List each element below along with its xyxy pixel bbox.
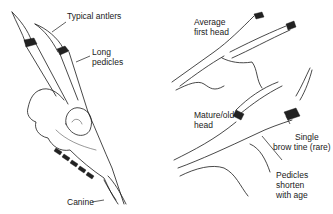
label-long-pedicles-line2: pedicles [92, 57, 123, 67]
label-mature-line1: Mature/old [194, 110, 234, 120]
label-pedicles-line2: shorten [276, 180, 308, 190]
label-long-pedicles: Long pedicles [92, 47, 123, 67]
leader-long-pedicles [76, 56, 90, 62]
label-pedicles-shorten: Pedicles shorten with age [276, 170, 308, 200]
label-single-brow-tine: Single brow tine (rare) [273, 132, 331, 152]
label-average-first-head: Average first head [194, 17, 229, 37]
label-mature-line2: head [194, 120, 234, 130]
label-canine: Canine [67, 197, 94, 207]
leader-typical-antlers [52, 22, 66, 32]
label-typical-antlers: Typical antlers [67, 11, 121, 21]
label-pedicles-line1: Pedicles [276, 170, 308, 180]
label-first-head-line1: Average [194, 17, 229, 27]
skull-drawing [12, 12, 126, 204]
label-brow-line1: Single [273, 132, 331, 142]
first-head-drawing [172, 12, 296, 90]
label-pedicles-line3: with age [276, 190, 308, 200]
label-first-head-line2: first head [194, 27, 229, 37]
label-brow-line2: brow tine (rare) [273, 142, 331, 152]
label-long-pedicles-line1: Long [92, 47, 123, 57]
antler-diagram: Typical antlers Long pedicles Canine Ave… [0, 0, 333, 214]
label-mature-old-head: Mature/old head [194, 110, 234, 130]
